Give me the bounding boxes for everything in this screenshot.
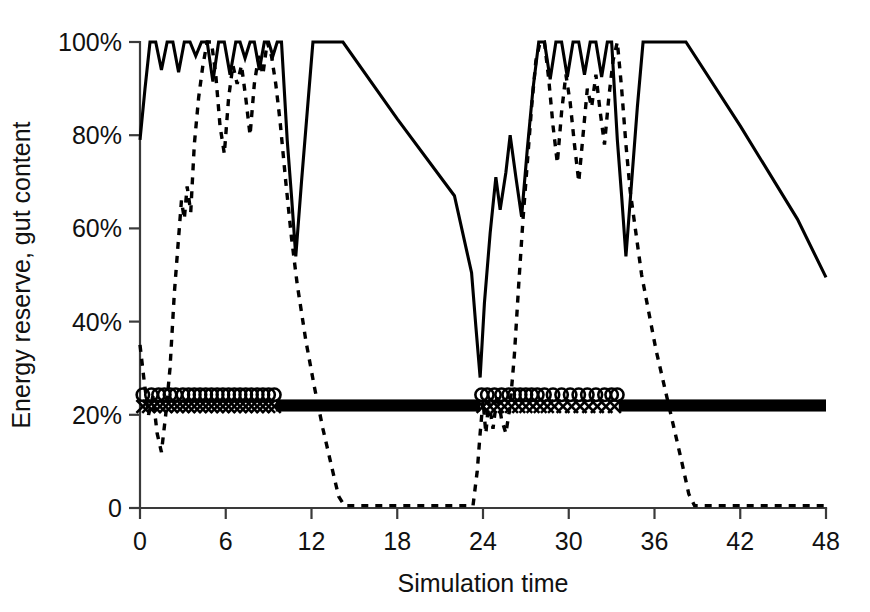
x-tick-label: 42 (726, 527, 754, 555)
x-tick-label: 36 (641, 527, 669, 555)
y-tick-label: 80% (72, 121, 122, 149)
x-tick-label: 6 (219, 527, 233, 555)
x-tick-label: 0 (133, 527, 147, 555)
y-tick-label: 0 (108, 494, 122, 522)
y-tick-label: 60% (72, 214, 122, 242)
x-axis-title: Simulation time (398, 569, 569, 597)
axis-lines (140, 42, 826, 508)
x-tick-label: 18 (383, 527, 411, 555)
y-axis-title: Energy reserve, gut content (7, 121, 35, 428)
night-bar (619, 399, 826, 411)
x-tick-label: 48 (812, 527, 840, 555)
series-energy-reserve-solid (140, 42, 826, 378)
y-tick-label: 20% (72, 401, 122, 429)
x-tick-label: 24 (469, 527, 497, 555)
chart-svg: 020%40%60%80%100%0612182430364248Simulat… (0, 0, 870, 612)
x-tick-label: 30 (555, 527, 583, 555)
night-bar (276, 399, 480, 411)
x-tick-label: 12 (298, 527, 326, 555)
y-tick-label: 100% (58, 28, 122, 56)
series-gut-content-dashed (140, 42, 826, 506)
chart-figure: 020%40%60%80%100%0612182430364248Simulat… (0, 0, 870, 612)
y-tick-label: 40% (72, 308, 122, 336)
